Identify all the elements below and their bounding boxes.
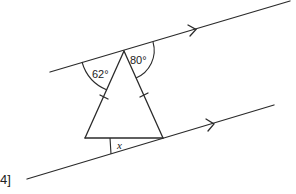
bottom-parallel-line: [27, 105, 274, 179]
top-parallel-line: [50, 1, 290, 72]
angle-arc-x: [110, 138, 111, 154]
geometry-diagram: 62° 80° x: [0, 0, 296, 194]
angle-label-x: x: [116, 139, 122, 151]
angle-label-80: 80°: [130, 54, 147, 66]
marks-label: 4]: [0, 172, 11, 187]
angle-label-62: 62°: [92, 68, 109, 80]
triangle-left-side: [85, 51, 124, 138]
